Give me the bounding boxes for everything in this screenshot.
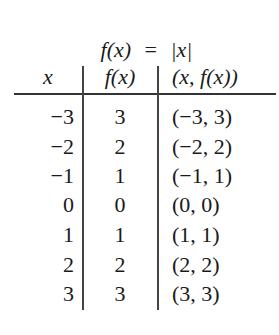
- cell-pair: (0, 0): [172, 194, 220, 216]
- cell-x: 1: [14, 224, 74, 246]
- cell-pair: (3, 3): [172, 283, 220, 305]
- header-fx: f(x): [84, 66, 156, 88]
- cell-fx: 0: [84, 194, 156, 216]
- cell-fx: 2: [84, 136, 156, 158]
- function-title: f(x) = |x|: [0, 38, 279, 62]
- cell-x: −1: [14, 165, 74, 187]
- header-x: x: [14, 66, 82, 88]
- cell-x: −3: [14, 106, 74, 128]
- cell-pair: (−1, 1): [172, 165, 232, 187]
- function-name: f(x): [101, 37, 132, 62]
- cell-x: 0: [14, 194, 74, 216]
- header-pair: (x, f(x)): [172, 66, 238, 88]
- cell-x: 2: [14, 254, 74, 276]
- column-divider-2: [157, 66, 159, 310]
- cell-x: −2: [14, 136, 74, 158]
- cell-fx: 3: [84, 106, 156, 128]
- equals-sign: =: [145, 37, 157, 62]
- header-divider: [14, 93, 276, 95]
- cell-pair: (−3, 3): [172, 106, 232, 128]
- cell-fx: 3: [84, 283, 156, 305]
- cell-pair: (1, 1): [172, 224, 220, 246]
- cell-fx: 1: [84, 224, 156, 246]
- cell-pair: (2, 2): [172, 254, 220, 276]
- cell-x: 3: [14, 283, 74, 305]
- cell-fx: 2: [84, 254, 156, 276]
- cell-pair: (−2, 2): [172, 136, 232, 158]
- header-pair-label: (x, f(x)): [172, 64, 238, 89]
- cell-fx: 1: [84, 165, 156, 187]
- function-expression: |x|: [171, 37, 193, 62]
